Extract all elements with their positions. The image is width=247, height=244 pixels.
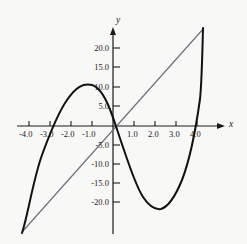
- x-axis-label: x: [229, 120, 233, 130]
- x-tick-label-1.0: 1.0: [127, 130, 138, 139]
- y-tick-label-5.0: 5.0: [79, 102, 109, 111]
- y-tick-label--10.0: -10.0: [79, 160, 109, 169]
- chart-figure: -4.0 -3.0 -2.0 -1.0 1.0 2.0 3.0 4.0 20.0…: [0, 0, 247, 244]
- x-tick-label--3.0: -3.0: [40, 130, 53, 139]
- y-axis-label: y: [116, 16, 120, 26]
- y-tick-label--5.0: -5.0: [79, 141, 109, 150]
- plot-canvas: [0, 0, 247, 244]
- y-tick-label-10.0: 10.0: [79, 83, 109, 92]
- x-tick-label--2.0: -2.0: [61, 130, 74, 139]
- x-tick-label-2.0: 2.0: [148, 130, 159, 139]
- y-tick-label-20.0: 20.0: [79, 44, 109, 53]
- x-tick-label--4.0: -4.0: [19, 130, 32, 139]
- y-tick-label--15.0: -15.0: [79, 179, 109, 188]
- y-tick-label--20.0: -20.0: [79, 198, 109, 207]
- x-tick-label-3.0: 3.0: [169, 130, 180, 139]
- x-tick-label-4.0: 4.0: [190, 130, 201, 139]
- x-tick-label--1.0: -1.0: [82, 130, 95, 139]
- y-tick-label-15.0: 15.0: [79, 63, 109, 72]
